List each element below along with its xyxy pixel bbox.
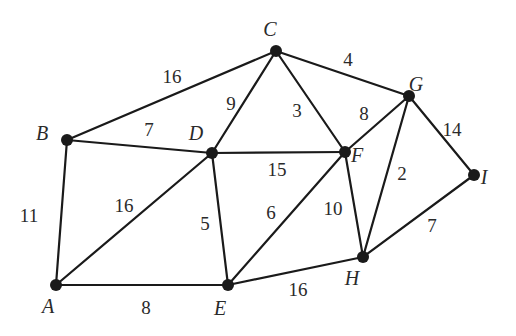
edge-weight-c-d: 9 [226, 93, 236, 114]
node-label-b: B [36, 122, 48, 144]
node-i [468, 169, 480, 181]
node-e [222, 279, 234, 291]
node-label-d: D [188, 122, 204, 144]
weights-layer: 111681679341556168102147 [20, 49, 462, 318]
edge-weight-f-h: 10 [324, 198, 343, 219]
node-label-c: C [263, 18, 277, 40]
edge-d-f [212, 152, 345, 153]
edge-weight-a-b: 11 [20, 205, 38, 226]
node-c [270, 45, 282, 57]
node-labels-layer: ABCDEFGHI [36, 18, 489, 319]
edge-weight-b-c: 16 [163, 66, 182, 87]
edge-weight-g-i: 14 [443, 119, 463, 140]
edge-weight-g-h: 2 [397, 163, 407, 184]
edge-weight-c-f: 3 [292, 100, 302, 121]
node-h [357, 251, 369, 263]
node-f [339, 146, 351, 158]
edge-g-i [409, 96, 474, 175]
node-label-h: H [344, 267, 361, 289]
node-d [206, 147, 218, 159]
edge-f-h [345, 152, 363, 257]
edge-weight-f-g: 8 [359, 103, 369, 124]
edge-weight-a-e: 8 [141, 297, 151, 318]
edge-weight-d-f: 15 [268, 159, 287, 180]
node-label-g: G [409, 73, 424, 95]
edge-a-b [56, 140, 67, 285]
edge-h-i [363, 175, 474, 257]
edge-c-f [276, 51, 345, 152]
edge-c-d [212, 51, 276, 153]
edge-d-e [212, 153, 228, 285]
node-label-f: F [350, 144, 364, 166]
edge-weight-d-e: 5 [200, 213, 210, 234]
edge-b-c [67, 51, 276, 140]
edge-weight-e-h: 16 [289, 279, 308, 300]
node-label-i: I [480, 166, 489, 188]
edge-weight-b-d: 7 [144, 119, 154, 140]
node-label-a: A [40, 295, 55, 317]
edge-weight-e-f: 6 [266, 202, 276, 223]
edge-weight-a-d: 16 [115, 195, 134, 216]
edge-weight-h-i: 7 [427, 215, 437, 236]
node-a [50, 279, 62, 291]
edge-weight-c-g: 4 [343, 49, 353, 70]
node-label-e: E [213, 297, 226, 319]
edge-a-d [56, 153, 212, 285]
node-b [61, 134, 73, 146]
weighted-graph: 111681679341556168102147 ABCDEFGHI [0, 0, 516, 336]
